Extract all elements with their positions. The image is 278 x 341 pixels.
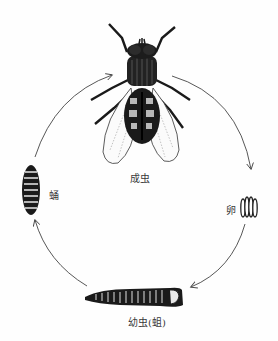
label-adult: 成虫: [130, 170, 150, 185]
arrow-egg-to-larva: [191, 224, 245, 287]
larva-illustration: [85, 288, 183, 307]
label-egg: 卵: [226, 202, 236, 217]
eggs-illustration: [241, 197, 257, 217]
label-larva: 幼虫(蛆): [128, 314, 166, 329]
adult-fly-illustration: [91, 24, 190, 164]
pupa-illustration: [22, 165, 40, 215]
label-pupa: 蛹: [49, 187, 59, 202]
arrow-larva-to-pupa: [35, 220, 87, 286]
arrow-adult-to-egg: [172, 76, 251, 169]
arrow-pupa-to-adult: [35, 75, 112, 157]
life-cycle-diagram: 成虫 卵 幼虫(蛆) 蛹: [0, 0, 278, 341]
